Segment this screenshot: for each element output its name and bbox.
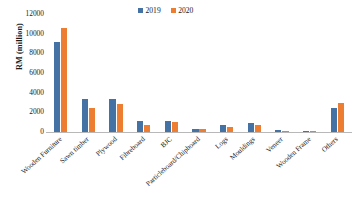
bar-2020 (199, 129, 205, 132)
legend-label: 2020 (178, 7, 193, 15)
x-axis-label: Others (321, 136, 340, 154)
legend-item-2019[interactable]: 2019 (138, 7, 161, 15)
x-axis-label: Veneer (265, 136, 284, 154)
bar-2019 (165, 121, 171, 132)
bar-2019 (303, 131, 309, 132)
bar-2019 (82, 99, 88, 132)
y-axis-tick-labels: 120001000080006000400020000 (0, 0, 44, 216)
bar-2019 (54, 42, 60, 132)
bar-group (331, 14, 344, 132)
bar-2020 (144, 125, 150, 132)
bar-group (220, 14, 233, 132)
x-axis-label: Fibreboard (119, 136, 147, 162)
x-axis-label: Logs (214, 136, 229, 151)
bar-group (137, 14, 150, 132)
x-axis-line (46, 132, 352, 133)
chart-legend: 20192020 (138, 7, 193, 15)
bar-group (54, 14, 67, 132)
plot-area (47, 14, 351, 132)
legend-label: 2019 (146, 7, 161, 15)
y-axis-tick: 2000 (2, 109, 44, 116)
bar-2020 (89, 108, 95, 132)
bar-2020 (117, 104, 123, 132)
y-axis-tick: 0 (2, 128, 44, 135)
bar-2019 (220, 125, 226, 132)
bar-2019 (137, 121, 143, 132)
bar-group (82, 14, 95, 132)
bar-group (248, 14, 261, 132)
legend-swatch-icon (138, 8, 143, 13)
x-axis-label: Plywood (95, 136, 118, 158)
bar-group (192, 14, 205, 132)
bar-group (165, 14, 178, 132)
bar-group (275, 14, 288, 132)
legend-item-2020[interactable]: 2020 (171, 7, 194, 15)
y-axis-tick: 12000 (2, 10, 44, 17)
bar-chart: RM (million) 120001000080006000400020000… (0, 0, 357, 216)
bar-2019 (275, 130, 281, 132)
bar-group (303, 14, 316, 132)
y-axis-tick: 8000 (2, 50, 44, 57)
bar-2020 (338, 103, 344, 132)
x-axis-label: BJC (160, 136, 174, 149)
bar-2019 (248, 123, 254, 132)
bar-2019 (331, 108, 337, 132)
bar-2020 (282, 131, 288, 132)
y-axis-tick: 10000 (2, 30, 44, 37)
bar-2020 (255, 125, 261, 132)
legend-swatch-icon (171, 8, 176, 13)
bar-2020 (310, 131, 316, 132)
bar-2020 (227, 127, 233, 133)
x-axis-label: Particleboard/Chipboard (145, 136, 202, 188)
bar-group (109, 14, 122, 132)
bar-2020 (61, 28, 67, 132)
y-axis-tick: 6000 (2, 69, 44, 76)
bar-2019 (109, 99, 115, 132)
bar-2020 (172, 122, 178, 132)
bar-2019 (192, 129, 198, 132)
y-axis-tick: 4000 (2, 89, 44, 96)
x-axis-label: Sawn timber (60, 136, 92, 165)
x-axis-label: Mouldings (229, 136, 257, 162)
